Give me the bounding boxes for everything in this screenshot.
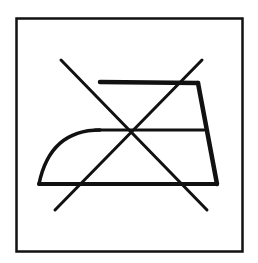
do-not-iron-symbol: Do not iron xyxy=(0,0,258,263)
iron-icon xyxy=(39,82,217,184)
